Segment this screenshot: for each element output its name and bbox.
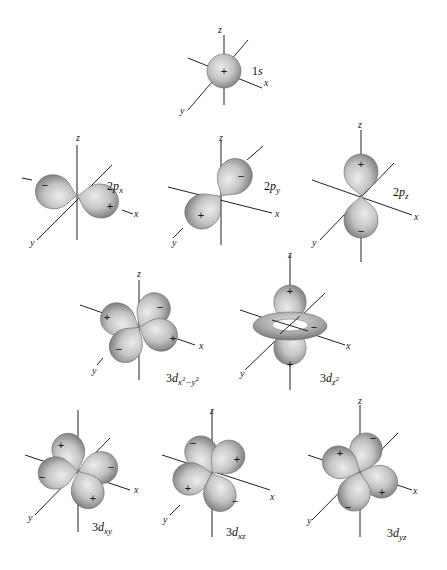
axis-label-x: x <box>345 340 351 351</box>
orbital-1s: + z x y 1s <box>179 24 269 116</box>
axis-label-x: x <box>198 340 204 351</box>
axis-label-y: y <box>179 105 185 116</box>
sign-plus: + <box>107 200 113 212</box>
orbital-diagram: + z x y 1s − + z x y 2px − + z x y 2py <box>0 0 447 570</box>
orbital-3dxz: − + + − z x y 3dxz <box>162 405 275 541</box>
orbital-label-3dyz: 3dyz <box>387 526 407 542</box>
axis-label-x: x <box>274 208 280 219</box>
sign-plus: + <box>58 439 64 451</box>
sign-plus: + <box>358 158 364 170</box>
sign-minus: − <box>108 461 114 473</box>
sign-minus: − <box>39 471 45 483</box>
orbital-3dz2: + − + z x y 3dz2 <box>239 249 351 390</box>
axis-label-y: y <box>306 515 312 526</box>
sign-plus: + <box>104 311 110 323</box>
axis-label-y: y <box>171 237 177 248</box>
orbital-3dyz: − + + − z x y 3dyz <box>306 395 418 542</box>
axis-label-x: x <box>263 77 269 88</box>
axis-label-y: y <box>91 365 97 376</box>
sign-minus: − <box>358 225 364 237</box>
orbital-label-3dxz: 3dxz <box>226 525 246 541</box>
axis-label-z: z <box>287 249 292 260</box>
orbital-3dxy: + − − + x y 3dxy <box>25 410 139 536</box>
sign-plus: + <box>337 447 343 459</box>
sign-plus: + <box>234 453 240 465</box>
sign-plus: + <box>287 358 293 370</box>
axis-label-x: x <box>133 484 139 495</box>
sign-plus: + <box>221 65 227 77</box>
axis-label-y: y <box>239 368 245 379</box>
orbital-label-2px: 2px <box>107 179 123 195</box>
sign-minus: − <box>311 321 317 333</box>
axis-label-x: x <box>413 211 419 222</box>
sign-plus: + <box>198 209 204 221</box>
orbital-2pz: + − z x y 2pz <box>311 119 419 262</box>
axis-label-x: x <box>269 491 275 502</box>
sign-minus: − <box>42 179 48 191</box>
orbital-label-3dxy: 3dxy <box>92 520 112 536</box>
axis-label-z: z <box>75 132 80 143</box>
orbital-label-2pz: 2pz <box>393 185 409 201</box>
axis-label-x: x <box>133 208 139 219</box>
axis-label-x: x <box>412 485 418 496</box>
axis-label-y: y <box>29 237 35 248</box>
orbital-label-3dx2-y2: 3dx2−y2 <box>166 371 200 387</box>
sign-plus: + <box>90 492 96 504</box>
sign-minus: − <box>238 170 244 182</box>
sign-minus: − <box>232 495 238 507</box>
axis-label-z: z <box>218 132 223 143</box>
axis-label-z: z <box>217 24 222 35</box>
orbital-label-3dz2: 3dz2 <box>320 371 340 387</box>
axis-label-z: z <box>357 119 362 130</box>
sign-plus: + <box>185 482 191 494</box>
sign-plus: + <box>287 285 293 297</box>
axis-label-z: z <box>357 395 362 406</box>
orbital-label-2py: 2py <box>264 179 280 195</box>
sign-minus: − <box>190 437 196 449</box>
orbital-2px: − + z x y 2px <box>22 132 139 248</box>
sign-minus: − <box>345 501 351 513</box>
sign-minus: − <box>116 343 122 355</box>
axis-label-y: y <box>311 237 317 248</box>
axis-label-y: y <box>27 512 33 523</box>
sign-minus: − <box>157 301 163 313</box>
axis-label-z: z <box>136 268 141 279</box>
sign-plus: + <box>379 486 385 498</box>
orbital-2py: − + z x y 2py <box>168 132 280 248</box>
orbital-label-1s: 1s <box>252 64 263 78</box>
axis-label-y: y <box>162 514 168 525</box>
axis-label-z: z <box>209 405 214 416</box>
sign-plus: + <box>170 332 176 344</box>
sign-minus: − <box>370 432 376 444</box>
orbital-3dx2-y2: + − − + z x y 3dx2−y2 <box>80 268 204 387</box>
